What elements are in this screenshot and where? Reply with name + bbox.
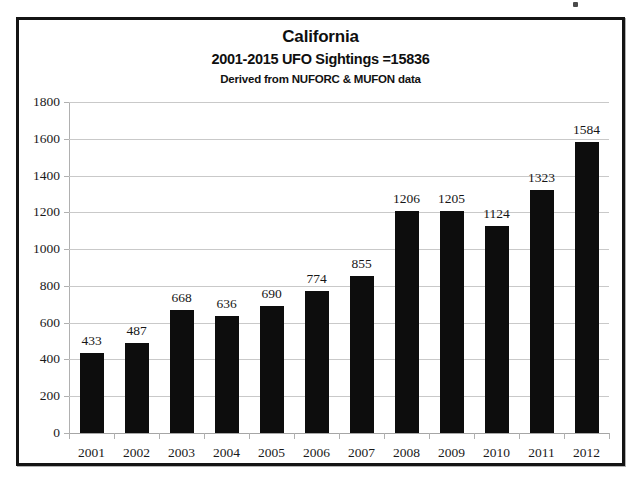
bar-slot: 1584 [564, 102, 609, 433]
bar-slot: 487 [114, 102, 159, 433]
x-axis-tick-label: 2005 [258, 445, 285, 461]
x-axis-tick-label: 2008 [393, 445, 420, 461]
page-title: California [19, 26, 622, 47]
x-axis-tick-label: 2010 [483, 445, 510, 461]
bar-value-label: 774 [306, 271, 326, 287]
x-axis-tick-mark [69, 433, 70, 439]
bar-value-label: 487 [126, 323, 146, 339]
bar[interactable] [485, 226, 509, 433]
bar[interactable] [350, 276, 374, 433]
y-axis-tick-label: 1600 [33, 131, 60, 147]
bar-value-label: 636 [216, 296, 236, 312]
x-axis-tick-label: 2002 [123, 445, 150, 461]
x-axis-tick-mark [204, 433, 205, 439]
y-axis-tick-label: 1200 [33, 204, 60, 220]
bar[interactable] [125, 343, 149, 433]
bar[interactable] [80, 353, 104, 433]
chart-title-block: California 2001-2015 UFO Sightings =1583… [19, 26, 622, 88]
y-axis-tick-label: 0 [53, 425, 60, 441]
bar-slot: 1206 [384, 102, 429, 433]
x-axis-tick-mark [249, 433, 250, 439]
bar-value-label: 1323 [528, 170, 555, 186]
x-axis-tick-mark [429, 433, 430, 439]
x-axis-tick-mark [519, 433, 520, 439]
x-axis-tick-label: 2001 [78, 445, 105, 461]
chart-source-note: Derived from NUFORC & MUFON data [19, 71, 622, 88]
bar-value-label: 1124 [483, 206, 510, 222]
bar-value-label: 855 [351, 256, 371, 272]
x-axis-tick-label: 2012 [573, 445, 600, 461]
y-axis-tick-label: 1400 [33, 168, 60, 184]
y-axis-tick-label: 1000 [33, 241, 60, 257]
bar-slot: 690 [249, 102, 294, 433]
bar[interactable] [395, 211, 419, 433]
y-axis-tick-label: 400 [40, 351, 60, 367]
y-axis-tick-label: 800 [40, 278, 60, 294]
x-axis-tick-label: 2007 [348, 445, 375, 461]
bar-slot: 1323 [519, 102, 564, 433]
bar[interactable] [530, 190, 554, 433]
x-axis-tick-mark [609, 433, 610, 439]
x-axis-tick-mark [564, 433, 565, 439]
bar-value-label: 433 [81, 333, 101, 349]
bar[interactable] [260, 306, 284, 433]
bar-value-label: 1584 [573, 122, 600, 138]
x-axis-tick-mark [159, 433, 160, 439]
x-axis-tick-label: 2006 [303, 445, 330, 461]
x-axis-tick-mark [384, 433, 385, 439]
x-axis-tick-label: 2009 [438, 445, 465, 461]
bar[interactable] [575, 142, 599, 433]
bar-slot: 668 [159, 102, 204, 433]
bar-slot: 433 [69, 102, 114, 433]
bar[interactable] [215, 316, 239, 433]
bar-slot: 1124 [474, 102, 519, 433]
bar[interactable] [440, 211, 464, 433]
x-axis-tick-label: 2011 [528, 445, 555, 461]
bar-slot: 1205 [429, 102, 474, 433]
bar-value-label: 668 [171, 290, 191, 306]
bar-value-label: 1205 [438, 191, 465, 207]
bar[interactable] [170, 310, 194, 433]
y-axis-tick-label: 1800 [33, 94, 60, 110]
x-axis-tick-label: 2003 [168, 445, 195, 461]
x-axis-tick-mark [339, 433, 340, 439]
y-axis-tick-label: 600 [40, 315, 60, 331]
x-axis-tick-mark [474, 433, 475, 439]
x-axis-tick-mark [114, 433, 115, 439]
bar-value-label: 1206 [393, 191, 420, 207]
bar-value-label: 690 [261, 286, 281, 302]
bar-slot: 636 [204, 102, 249, 433]
chart-subtitle: 2001-2015 UFO Sightings =15836 [19, 49, 622, 69]
bar-slot: 774 [294, 102, 339, 433]
scan-artifact-speck [573, 2, 578, 7]
plot-area: 020040060080010001200140016001800 433487… [69, 102, 609, 433]
x-axis-tick-label: 2004 [213, 445, 240, 461]
y-axis-tick-label: 200 [40, 388, 60, 404]
bar[interactable] [305, 291, 329, 433]
x-axis-tick-mark [294, 433, 295, 439]
chart-frame: California 2001-2015 UFO Sightings =1583… [16, 17, 625, 466]
bar-slot: 855 [339, 102, 384, 433]
